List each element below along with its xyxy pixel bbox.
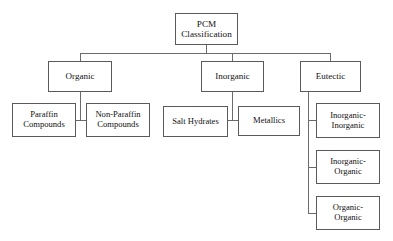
- edge-bus-to-inorganic: [232, 53, 233, 61]
- node-inorganic-organic[interactable]: Inorganic- Organic: [316, 150, 380, 184]
- node-paraffin-compounds[interactable]: Paraffin Compounds: [12, 103, 76, 137]
- node-pcm-classification[interactable]: PCM Classification: [175, 13, 238, 45]
- node-eutectic-label: Eutectic: [314, 71, 347, 81]
- node-salt-hydrates[interactable]: Salt Hydrates: [163, 106, 228, 137]
- node-inorganic-inorganic[interactable]: Inorganic- Inorganic: [316, 103, 380, 138]
- edge-organic-stem: [80, 92, 81, 121]
- node-organic-label: Organic: [64, 71, 97, 81]
- node-inorganic[interactable]: Inorganic: [201, 61, 264, 92]
- edge-inorganic-stem: [232, 92, 233, 121]
- node-organic-organic-label: Organic- Organic: [331, 203, 365, 222]
- edge-eutectic-stem: [308, 92, 309, 213]
- node-eutectic[interactable]: Eutectic: [300, 61, 361, 92]
- node-metallics-label: Metallics: [251, 116, 287, 126]
- node-organic-organic[interactable]: Organic- Organic: [316, 196, 380, 230]
- node-inorganic-label: Inorganic: [213, 71, 251, 81]
- node-inorganic-inorganic-label: Inorganic- Inorganic: [328, 111, 368, 130]
- edge-bus-to-eutectic: [330, 53, 331, 61]
- edge-bus-to-organic: [80, 53, 81, 61]
- node-non-paraffin-compounds[interactable]: Non-Paraffin Compounds: [86, 103, 150, 137]
- node-pcm-classification-label: PCM Classification: [179, 19, 234, 40]
- edge-level1-bus: [80, 53, 331, 54]
- pcm-classification-diagram: PCM Classification Organic Inorganic Eut…: [0, 0, 393, 241]
- node-non-paraffin-compounds-label: Non-Paraffin Compounds: [93, 110, 142, 129]
- node-metallics[interactable]: Metallics: [238, 106, 300, 136]
- node-inorganic-organic-label: Inorganic- Organic: [328, 157, 368, 176]
- node-paraffin-compounds-label: Paraffin Compounds: [21, 110, 67, 129]
- node-salt-hydrates-label: Salt Hydrates: [170, 117, 221, 127]
- node-organic[interactable]: Organic: [48, 61, 112, 92]
